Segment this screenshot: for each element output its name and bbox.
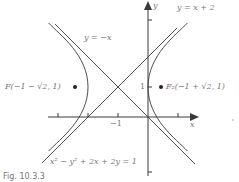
focus-left-dot [73,85,77,89]
focus-right-label: F₂(−1 + √2, 1) [166,83,225,91]
x-axis-label: x [190,121,195,129]
figure-caption: Fig. 10.3.3 [3,173,45,181]
y-axis-label: y [153,2,158,10]
asymptote-y-neg-x [55,24,195,164]
y-tick-label-1: 1 [140,83,145,91]
x-tick-label-minus1: −1 [110,120,122,128]
asymptote-label-y-x-plus-2: y = x + 2 [177,4,215,12]
focus-right-dot [159,85,163,89]
equation-label: x² − y² + 2x + 2y = 1 [50,158,137,166]
margin-dot [232,119,234,121]
focus-left-label: F(−1 − √2, 1) [5,83,61,91]
asymptote-y-x-plus-2 [42,28,177,163]
hyperbola-figure [0,0,239,182]
asymptote-label-y-neg-x: y = −x [84,34,112,42]
y-axis-arrow-icon [144,1,152,10]
x-ticks [58,113,178,117]
